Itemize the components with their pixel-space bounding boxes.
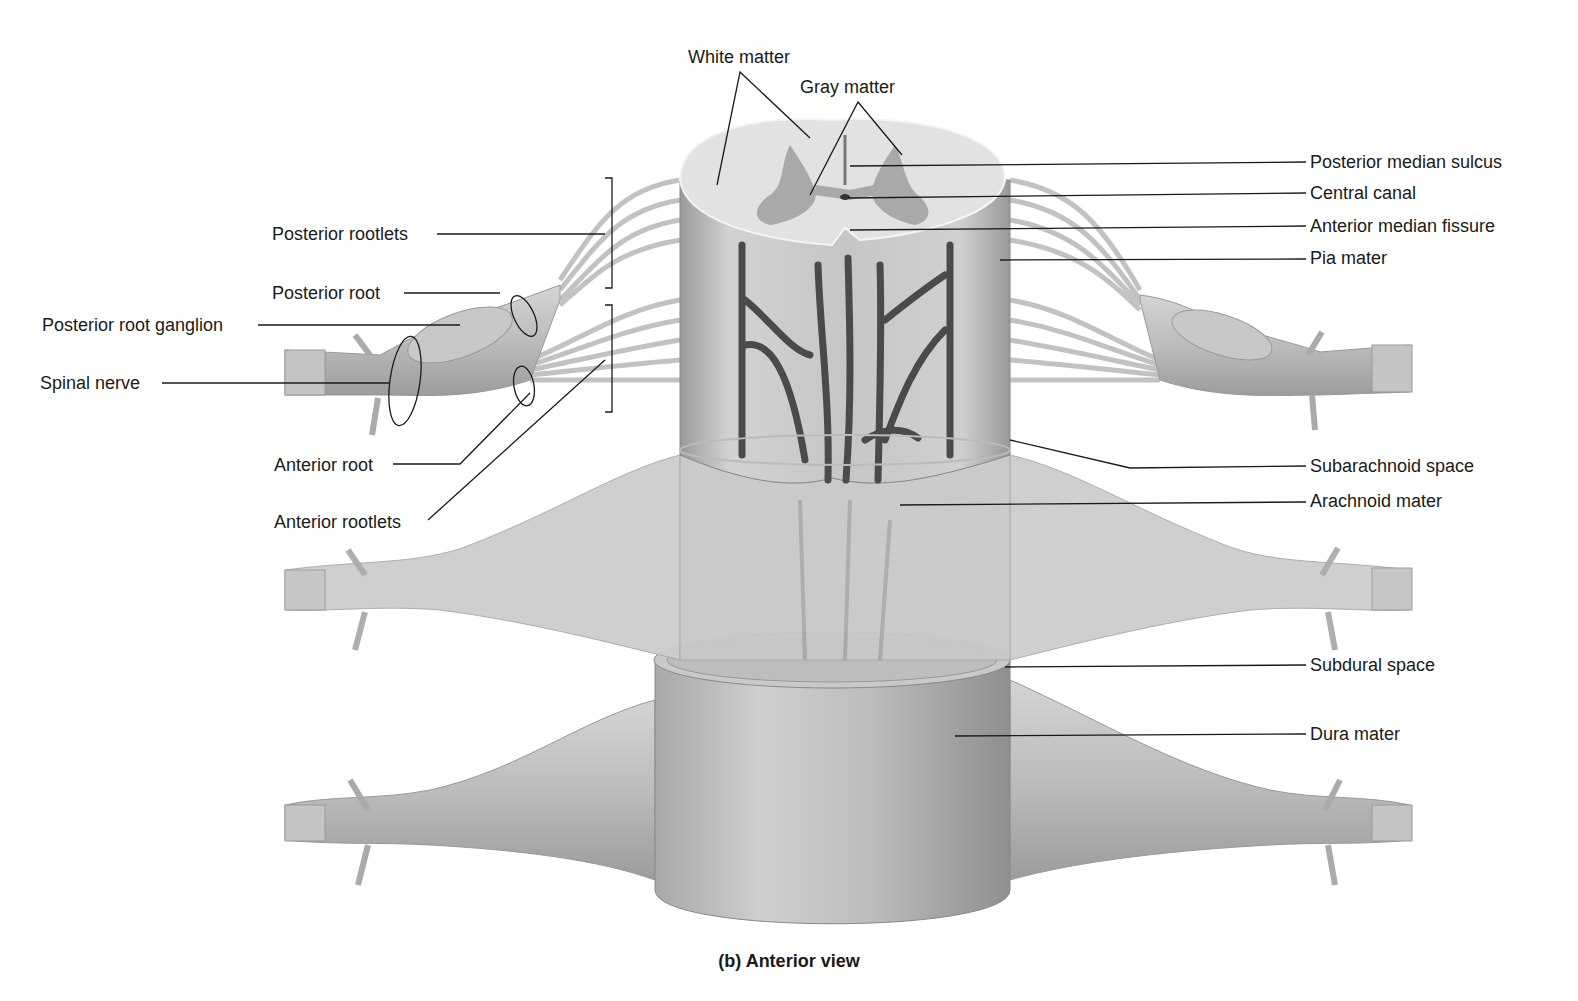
spinal-cord-diagram: White matter Gray matter Posterior rootl… bbox=[0, 0, 1578, 1001]
label-pia-mater: Pia mater bbox=[1310, 248, 1387, 268]
label-anterior-median-fissure: Anterior median fissure bbox=[1310, 216, 1495, 236]
label-anterior-root: Anterior root bbox=[274, 455, 373, 475]
label-gray-matter: Gray matter bbox=[800, 77, 895, 97]
dura-mater-shape bbox=[285, 632, 1412, 924]
label-dura-mater: Dura mater bbox=[1310, 724, 1400, 744]
label-posterior-median-sulcus: Posterior median sulcus bbox=[1310, 152, 1502, 172]
label-subarachnoid-space: Subarachnoid space bbox=[1310, 456, 1474, 476]
spinal-cord-shape bbox=[285, 119, 1412, 483]
label-posterior-rootlets: Posterior rootlets bbox=[272, 224, 408, 244]
label-white-matter: White matter bbox=[688, 47, 790, 67]
label-spinal-nerve: Spinal nerve bbox=[40, 373, 140, 393]
label-posterior-root-ganglion: Posterior root ganglion bbox=[42, 315, 223, 335]
label-arachnoid-mater: Arachnoid mater bbox=[1310, 491, 1442, 511]
label-anterior-rootlets: Anterior rootlets bbox=[274, 512, 401, 532]
arachnoid-mater-shape bbox=[285, 455, 1412, 660]
label-central-canal: Central canal bbox=[1310, 183, 1416, 203]
label-posterior-root: Posterior root bbox=[272, 283, 380, 303]
figure-caption: (b) Anterior view bbox=[0, 951, 1578, 972]
label-subdural-space: Subdural space bbox=[1310, 655, 1435, 675]
